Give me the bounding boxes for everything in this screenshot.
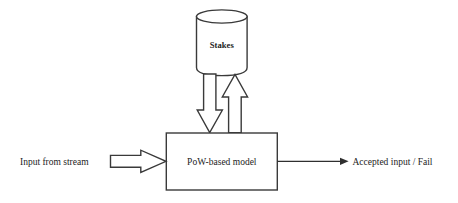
diagram-svg: Stakes PoW-based model Input from stream… [0,0,458,203]
block-arrow-down-to-process [197,74,222,133]
output-arrow-head [340,158,349,165]
line-arrow-output [277,158,348,165]
diagram-canvas: Stakes PoW-based model Input from stream… [0,0,458,203]
block-arrow-up-to-datastore [222,75,247,133]
input-label: Input from stream [20,157,89,167]
block-arrow-input [111,150,167,172]
datastore-label: Stakes [210,40,235,50]
output-label: Accepted input / Fail [353,157,433,167]
cylinder-top-ellipse [197,10,248,23]
process-label: PoW-based model [187,157,257,167]
